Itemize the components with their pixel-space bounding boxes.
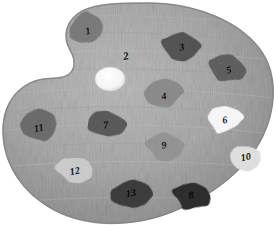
palette-image-canvas: 1354611791012138 2 — [0, 0, 276, 230]
palette-thumb-hole — [95, 67, 125, 91]
blob-13-label: 13 — [125, 187, 137, 200]
palette-illustration: 1354611791012138 2 — [0, 0, 276, 230]
